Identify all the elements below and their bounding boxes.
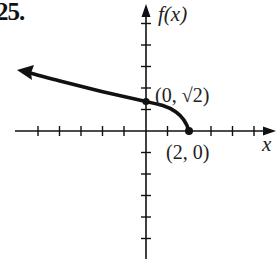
y-axis-arrow-icon [142, 4, 151, 17]
point-label-2-0: (2, 0) [166, 141, 209, 164]
point-0-sqrt2 [142, 98, 149, 105]
y-axis-label: f(x) [158, 2, 187, 27]
x-axis-label: x [262, 132, 271, 157]
point-2-0 [185, 127, 193, 135]
point-label-0-sqrt2: (0, √2) [155, 84, 209, 107]
graph [0, 0, 278, 269]
